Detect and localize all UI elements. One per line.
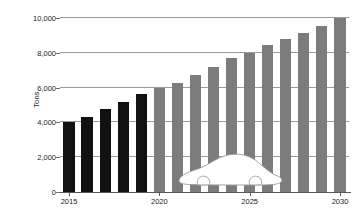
bar-2019[interactable]: [136, 94, 147, 192]
y-tick-label-6000: 6,000: [8, 83, 56, 92]
y-tick-label-8000: 8,000: [8, 48, 56, 57]
bar-2015[interactable]: [63, 122, 74, 192]
bar-2030[interactable]: [334, 18, 345, 192]
x-tick-mark-2015: [69, 192, 70, 196]
bar-2016[interactable]: [81, 117, 92, 192]
bar-2027[interactable]: [280, 39, 291, 192]
gridline-10000: [60, 17, 349, 18]
bar-2021[interactable]: [172, 83, 183, 192]
x-tick-mark-2020: [159, 192, 160, 196]
x-axis-tick-labels: 2015202020252030: [0, 195, 357, 213]
y-tick-label-10000: 10,000: [8, 14, 56, 23]
x-tick-mark-2030: [340, 192, 341, 196]
plot-area: [60, 18, 349, 192]
x-tick-label-2030: 2030: [332, 197, 349, 206]
x-axis-line: [60, 192, 351, 193]
x-tick-label-2015: 2015: [61, 197, 78, 206]
bar-2025[interactable]: [244, 53, 255, 192]
bar-2018[interactable]: [118, 102, 129, 192]
bar-chart: Tons 02,0004,0006,0008,00010,000 2015202…: [0, 0, 357, 218]
bar-2026[interactable]: [262, 45, 273, 192]
y-tick-label-2000: 2,000: [8, 153, 56, 162]
bar-2024[interactable]: [226, 58, 237, 192]
bar-2017[interactable]: [100, 109, 111, 192]
x-tick-label-2020: 2020: [151, 197, 168, 206]
bar-2020[interactable]: [154, 88, 165, 192]
bar-2023[interactable]: [208, 67, 219, 192]
bar-2029[interactable]: [316, 26, 327, 192]
x-tick-mark-2025: [250, 192, 251, 196]
bar-2022[interactable]: [190, 75, 201, 192]
y-axis-tick-labels: 02,0004,0006,0008,00010,000: [6, 18, 56, 192]
bar-2028[interactable]: [298, 33, 309, 192]
x-tick-label-2025: 2025: [241, 197, 258, 206]
y-tick-label-4000: 4,000: [8, 118, 56, 127]
